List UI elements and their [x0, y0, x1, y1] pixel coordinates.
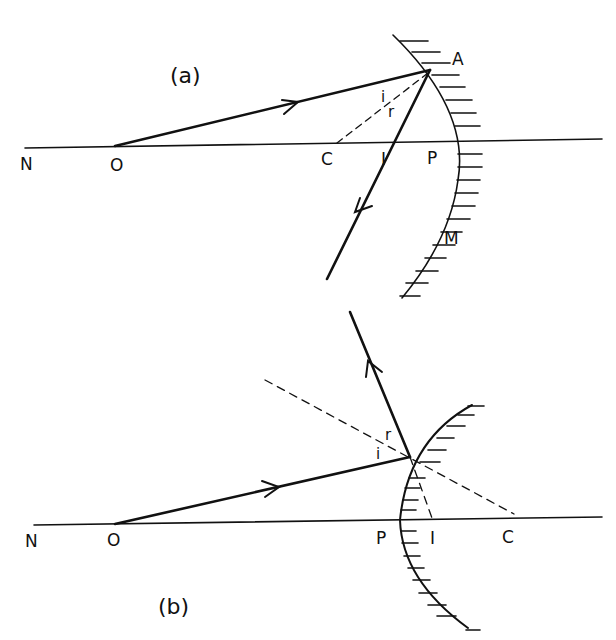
ray-diagram-figure: (a) N O C I P A M i r: [0, 0, 616, 640]
mirror-hatching-a: [400, 41, 482, 296]
diagram-b: [34, 312, 602, 630]
label-p-b: P: [376, 528, 386, 548]
label-n-a: N: [20, 154, 33, 174]
label-n-b: N: [25, 531, 38, 551]
angle-r-a: r: [388, 103, 395, 121]
mirror-hatching-b: [401, 406, 484, 630]
label-o-b: O: [107, 530, 120, 550]
normal-line-a: [337, 73, 428, 143]
diagram-b-labels: (b) N O P I C r i: [25, 426, 514, 619]
arrow-icon: [282, 100, 298, 114]
label-c-a: C: [321, 149, 333, 169]
label-i-image-a: I: [381, 149, 386, 169]
label-c-b: C: [502, 527, 514, 547]
label-i-image-b: I: [430, 528, 435, 548]
normal-line-b: [265, 380, 514, 514]
label-p-a: P: [427, 148, 437, 168]
angle-r-b: r: [385, 426, 392, 444]
incident-ray-a: [115, 70, 430, 146]
angle-i-b: i: [376, 445, 380, 463]
caption-b: (b): [158, 594, 189, 619]
reflected-ray-a: [327, 70, 430, 279]
label-m: M: [444, 228, 459, 248]
reflected-ray-b: [350, 312, 410, 457]
convex-mirror-arc: [400, 405, 472, 628]
caption-a: (a): [170, 63, 201, 88]
incident-ray-b: [115, 457, 410, 524]
angle-i-a: i: [381, 88, 385, 106]
label-o-a: O: [110, 155, 123, 175]
principal-axis-a: [25, 139, 602, 148]
label-a: A: [452, 49, 464, 69]
